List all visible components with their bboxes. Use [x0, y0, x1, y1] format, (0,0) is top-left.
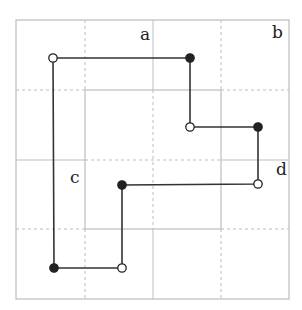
open-node-icon: [49, 54, 57, 62]
open-node-icon: [254, 180, 262, 188]
filled-node-icon: [118, 181, 126, 189]
label-c: c: [70, 167, 80, 187]
label-d: d: [276, 159, 287, 179]
filled-node-icon: [186, 54, 194, 62]
open-node-icon: [186, 123, 194, 131]
open-node-icon: [118, 264, 126, 272]
path-nodes: [49, 54, 262, 272]
label-b: b: [272, 22, 283, 42]
grid: [16, 20, 289, 299]
corner-labels: abcd: [70, 22, 287, 187]
filled-node-icon: [254, 123, 262, 131]
filled-node-icon: [50, 264, 58, 272]
label-a: a: [140, 24, 150, 44]
grid-path-diagram: abcd: [0, 0, 302, 310]
